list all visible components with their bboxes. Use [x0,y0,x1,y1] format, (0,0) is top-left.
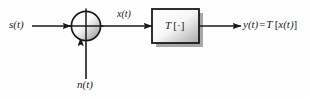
diagram-vector-layer [0,0,310,98]
output-expression-label: y(t) = T [x(t)] [243,19,297,30]
noise-input-label: n(t) [77,79,93,90]
output-argument: x(t) [278,18,293,30]
input-signal-label: s(t) [9,19,24,30]
output-bracket-close: ] [294,18,298,30]
output-lhs: y(t) [243,18,258,30]
system-block-label: T [·] [165,20,184,31]
block-diagram-canvas: s(t) x(t) n(t) T [·] y(t) = T [x(t)] [0,0,310,98]
system-bracket-close: ] [181,19,185,31]
sum-output-label: x(t) [117,9,131,19]
